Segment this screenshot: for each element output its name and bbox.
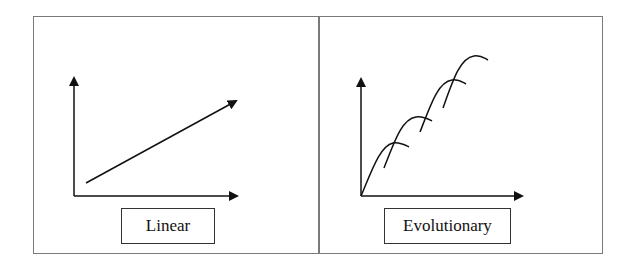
evolutionary-panel: [361, 56, 522, 196]
evolutionary-label: Evolutionary: [384, 208, 511, 244]
diagram-graphics: [0, 0, 636, 266]
linear-label: Linear: [121, 208, 215, 244]
linear-panel: [74, 78, 237, 196]
evolution-curve-2: [384, 117, 432, 168]
evolution-curve-1: [361, 143, 409, 196]
linear-growth-arrow: [86, 101, 236, 183]
evolution-curve-4: [443, 56, 488, 108]
